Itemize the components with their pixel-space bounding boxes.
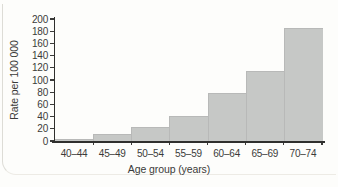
x-tick-label: 70–74 [283, 148, 323, 159]
x-axis-title: Age group (years) [0, 163, 338, 175]
histogram-bar-60-64 [208, 93, 247, 141]
x-tick-label: 50–54 [130, 148, 170, 159]
y-axis-line [54, 17, 56, 142]
y-tick-label: 100 [14, 75, 48, 86]
rate-by-age-histogram-figure: Rate per 100 000 02040608010012014016018… [0, 0, 338, 187]
plot-area: 020406080100120140160180200 40–4445–4950… [55, 19, 322, 141]
histogram-bar-50-54 [131, 127, 170, 141]
y-tick-label: 140 [14, 50, 48, 61]
x-tick-label: 65–69 [245, 148, 285, 159]
x-axis-line [52, 141, 325, 143]
x-tick-label: 60–64 [207, 148, 247, 159]
y-tick-label: 200 [14, 14, 48, 25]
x-tick-label: 40–44 [54, 148, 94, 159]
y-tick-label: 160 [14, 38, 48, 49]
y-tick-label: 60 [14, 99, 48, 110]
histogram-bar-55-59 [169, 116, 208, 141]
y-tick-label: 40 [14, 111, 48, 122]
y-tick-label: 80 [14, 87, 48, 98]
x-tick-label: 45–49 [92, 148, 132, 159]
y-tick-label: 20 [14, 123, 48, 134]
histogram-bar-70-74 [284, 28, 323, 141]
y-tick-label: 120 [14, 62, 48, 73]
y-tick-label: 0 [14, 136, 48, 147]
histogram-bar-45-49 [93, 134, 132, 141]
histogram-bar-65-69 [246, 71, 285, 141]
y-tick-label: 180 [14, 26, 48, 37]
x-tick-label: 55–59 [169, 148, 209, 159]
